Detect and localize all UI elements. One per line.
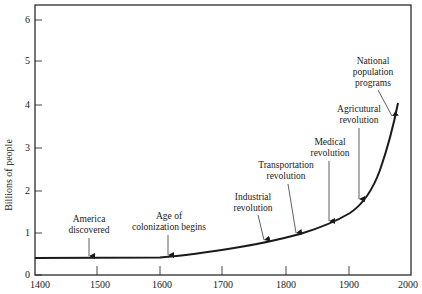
annotation-text: Medical [314, 137, 345, 147]
annotation-text: programs [355, 78, 391, 88]
x-tick-label: 1500 [90, 279, 110, 290]
annotation-industrial: Industrial revolution [233, 192, 272, 240]
arrow-icon [288, 184, 296, 233]
annotation-text: Age of [156, 211, 183, 221]
y-tick-label: 1 [25, 227, 30, 238]
annotation-text: revolution [339, 115, 378, 125]
annotation-text: National [357, 56, 390, 66]
annotation-text: population [353, 67, 394, 77]
x-tick-label: 2000 [398, 279, 418, 290]
x-tick-label: 1600 [152, 279, 172, 290]
x-tick-label: 1900 [339, 279, 359, 290]
x-tick-label: 1800 [276, 279, 296, 290]
annotation-text: revolution [310, 148, 349, 158]
annotation-text: Transportation [258, 160, 314, 170]
annotation-text: revolution [233, 203, 272, 213]
y-tick-label: 3 [25, 142, 30, 153]
x-tick-label: 1700 [213, 279, 233, 290]
y-tick-label: 4 [25, 99, 30, 110]
y-tick-label: 5 [25, 55, 30, 66]
y-axis: 0 1 2 3 4 5 6 Billions of people [3, 14, 42, 280]
annotation-text: revolution [266, 171, 305, 181]
annotation-medical: Medical revolution [310, 137, 349, 221]
y-axis-label: Billions of people [3, 139, 14, 211]
annotation-colonization: Age of colonization begins [132, 211, 206, 255]
annotation-text: discovered [68, 225, 109, 235]
annotation-text: Agricutural [337, 104, 381, 114]
x-axis: 1400 1500 1600 1700 1800 1900 2000 [30, 266, 418, 290]
y-tick-label: 2 [25, 185, 30, 196]
x-tick-label: 1400 [30, 279, 50, 290]
annotation-text: Industrial [235, 192, 272, 202]
population-chart: 0 1 2 3 4 5 6 Billions of people 1400 15… [0, 0, 422, 294]
y-tick-label: 6 [25, 14, 30, 25]
annotation-text: America [73, 214, 106, 224]
annotation-text: colonization begins [132, 222, 206, 232]
arrow-icon [258, 215, 264, 240]
annotation-america: America discovered [68, 214, 109, 256]
